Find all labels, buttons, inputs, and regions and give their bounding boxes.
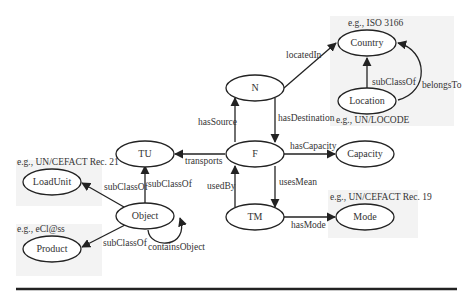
- node-label-f: F: [252, 148, 258, 159]
- node-tu[interactable]: TU: [116, 141, 174, 167]
- node-mode[interactable]: Mode: [336, 204, 394, 230]
- edge-label-transports: transports: [185, 156, 223, 166]
- node-label-tm: TM: [248, 211, 263, 222]
- example-product: e.g., eCl@ss: [17, 224, 65, 234]
- example-location: e.g., UN/LOCODE: [336, 115, 410, 125]
- node-label-product: Product: [36, 243, 67, 254]
- edge-label-hasCapacity: hasCapacity: [290, 141, 337, 151]
- edge-label-hasMode: hasMode: [291, 220, 326, 230]
- edge-label-containsObject: containsObject: [148, 242, 205, 252]
- node-object[interactable]: Object: [116, 203, 174, 229]
- edge-label-usedBy: usedBy: [207, 181, 236, 191]
- node-label-tu: TU: [138, 148, 152, 159]
- example-loadunit: e.g., UN/CEFACT Rec. 21: [17, 157, 119, 167]
- node-label-loadunit: LoadUnit: [33, 176, 72, 187]
- edge-label-subClassOf-tu: subClassOf: [148, 179, 193, 189]
- edge-label-hasSource: hasSource: [198, 117, 237, 127]
- edge-label-belongsTo: belongsTo: [422, 80, 462, 90]
- ontology-diagram: locatedIn subClassOf belongsTo hasSource…: [0, 0, 475, 296]
- node-capacity[interactable]: Capacity: [336, 141, 394, 167]
- node-f[interactable]: F: [226, 141, 284, 167]
- node-loadunit[interactable]: LoadUnit: [23, 169, 81, 195]
- node-label-location: Location: [349, 95, 385, 106]
- node-country[interactable]: Country: [338, 30, 396, 56]
- node-location[interactable]: Location: [338, 88, 396, 114]
- edge-label-locatedIn: locatedIn: [286, 50, 322, 60]
- node-label-capacity: Capacity: [347, 148, 383, 159]
- node-label-mode: Mode: [353, 211, 377, 222]
- node-tm[interactable]: TM: [226, 204, 284, 230]
- edge-label-subClassOf-product: subClassOf: [103, 238, 148, 248]
- node-label-n: N: [251, 82, 258, 93]
- edge-label-usesMean: usesMean: [279, 177, 317, 187]
- node-n[interactable]: N: [226, 75, 284, 101]
- edge-label-subClassOf-loadunit: subClassOf: [104, 182, 149, 192]
- edge-label-subClassOf-location: subClassOf: [372, 77, 417, 87]
- example-country: e.g., ISO 3166: [348, 18, 403, 28]
- node-label-object: Object: [132, 210, 159, 221]
- edge-label-hasDestination: hasDestination: [278, 113, 335, 123]
- node-product[interactable]: Product: [23, 236, 81, 262]
- example-mode: e.g., UN/CEFACT Rec. 19: [330, 192, 432, 202]
- node-label-country: Country: [351, 37, 384, 48]
